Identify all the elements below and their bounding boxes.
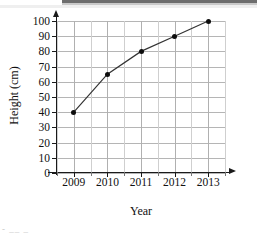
scan-artifact-text-fragment: - __ _	[2, 224, 29, 234]
data-line-series	[0, 0, 257, 234]
line-chart-figure: 100 90 80 70 60 50 40 30 20 10 0 2009 20…	[0, 0, 257, 234]
